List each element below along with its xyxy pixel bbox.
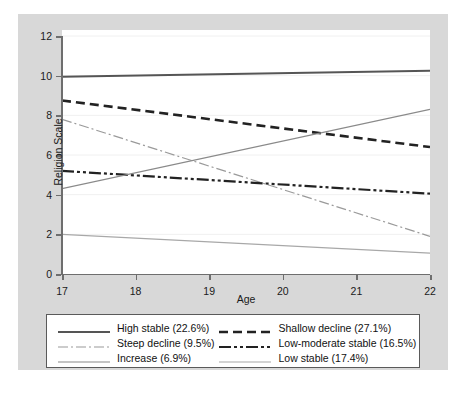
legend-grid: High stable (22.6%)Shallow decline (27.1…: [47, 319, 419, 367]
y-tick-label: 10: [40, 70, 52, 82]
legend-item[interactable]: Steep decline (9.5%): [53, 337, 214, 349]
legend-swatch-icon: [57, 338, 111, 348]
series-line-5: [62, 234, 430, 253]
legend-label: Low-moderate stable (16.5%): [278, 337, 416, 349]
x-tick: 18: [136, 275, 138, 280]
legend-swatch-icon: [218, 338, 272, 348]
legend-label: Increase (6.9%): [117, 352, 191, 364]
legend-item[interactable]: Low-moderate stable (16.5%): [214, 337, 416, 349]
legend-item[interactable]: Shallow decline (27.1%): [214, 322, 416, 334]
legend-label: Shallow decline (27.1%): [278, 322, 391, 334]
legend-swatch-icon: [57, 353, 111, 363]
y-tick-label: 12: [40, 30, 52, 42]
legend-swatch-icon: [57, 323, 111, 333]
series-line-1: [62, 100, 430, 147]
x-tick: 22: [430, 275, 432, 280]
legend-swatch-icon: [218, 353, 272, 363]
y-tick: 8: [56, 115, 61, 117]
y-tick-label: 4: [46, 189, 52, 201]
y-tick: 0: [56, 274, 61, 276]
y-tick: 10: [56, 76, 61, 78]
legend-label: Steep decline (9.5%): [117, 337, 214, 349]
series-line-3: [62, 171, 430, 194]
y-axis-title: Religion Scale: [52, 118, 64, 185]
legend-box: High stable (22.6%)Shallow decline (27.1…: [46, 314, 420, 368]
y-tick: 4: [56, 195, 61, 197]
plot-region: 024681012 171819202122 Religion Scale Ag…: [62, 30, 430, 274]
y-tick-label: 0: [46, 268, 52, 280]
series-line-2: [62, 119, 430, 236]
y-tick: 12: [56, 36, 61, 38]
legend-item[interactable]: Low stable (17.4%): [214, 352, 416, 364]
y-tick: 2: [56, 234, 61, 236]
x-tick: 19: [209, 275, 211, 280]
legend-swatch-icon: [218, 323, 272, 333]
figure-panel: 024681012 171819202122 Religion Scale Ag…: [18, 14, 448, 370]
legend-label: High stable (22.6%): [117, 322, 209, 334]
x-tick: 17: [62, 275, 64, 280]
series-canvas: [62, 30, 430, 274]
legend-label: Low stable (17.4%): [278, 352, 368, 364]
x-axis-line: [61, 274, 430, 276]
x-axis-title: Age: [62, 293, 430, 305]
series-line-4: [62, 109, 430, 188]
legend-item[interactable]: Increase (6.9%): [53, 352, 214, 364]
x-tick: 21: [356, 275, 358, 280]
legend-item[interactable]: High stable (22.6%): [53, 322, 214, 334]
y-tick-label: 2: [46, 228, 52, 240]
x-tick: 20: [283, 275, 285, 280]
